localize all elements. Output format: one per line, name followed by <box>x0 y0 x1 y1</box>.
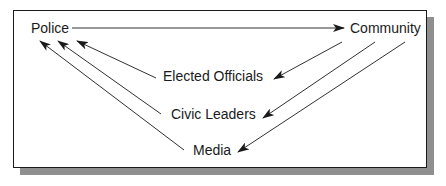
node-civic-leaders: Civic Leaders <box>171 106 256 122</box>
arrow-community-to-civic-leaders <box>263 42 375 118</box>
arrow-community-to-elected-officials <box>274 42 342 79</box>
arrow-civic-leaders-to-police <box>58 41 161 114</box>
node-elected-officials: Elected Officials <box>163 68 263 84</box>
node-community: Community <box>350 20 421 36</box>
arrow-elected-officials-to-police <box>77 41 156 78</box>
arrow-community-to-media <box>238 42 405 152</box>
node-police: Police <box>31 20 69 36</box>
node-media: Media <box>193 142 231 158</box>
